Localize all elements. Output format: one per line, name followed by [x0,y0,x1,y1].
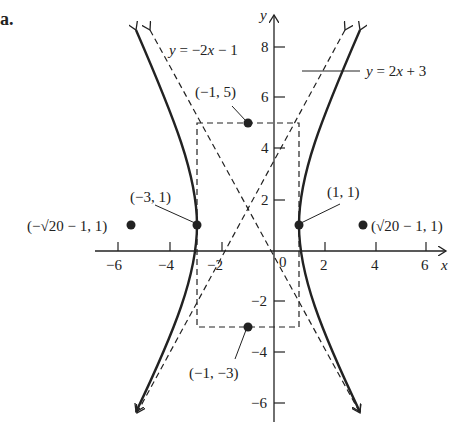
asymptote-label-negative: y = −2x − 1 [167,42,238,58]
hyperbola-left-branch [136,30,197,412]
asymptote-label-positive: y = 2x + 3 [364,63,426,79]
vertex-right [295,221,304,230]
x-tick-label: 2 [320,257,328,273]
central-box [197,123,299,327]
point-label-top: (−1, 5) [195,84,236,101]
y-ticks [274,47,285,403]
x-tick-label: 6 [421,257,429,273]
x-ticks [118,242,426,251]
y-axis-label: y [258,7,267,23]
point-label-vertex-left: (−3, 1) [130,189,171,206]
x-axis-label: x [440,257,448,273]
point-label-bottom: (−1, −3) [189,365,238,382]
focus-right [359,221,368,230]
x-tick-label: 4 [371,257,379,273]
focus-left [127,221,136,230]
x-tick-label: −6 [106,257,122,273]
figure-label: a. [0,9,14,29]
asymptote-positive [137,30,345,413]
y-tick-label: 4 [261,140,269,156]
y-tick-label: 8 [261,39,269,55]
y-tick-label: −6 [251,395,267,411]
hyperbola-right-branch [299,30,360,412]
vertex-left [193,221,202,230]
y-tick-label: −2 [251,293,267,309]
point-bottom [244,323,253,332]
y-tick-label: 6 [261,89,269,105]
y-tick-label: 2 [261,192,269,208]
x-tick-label: −4 [158,257,174,273]
point-label-focus-left: (−√20 − 1, 1) [27,218,107,235]
hyperbola-graph: −6 −4 −2 0 2 4 6 x 8 6 4 2 −2 −4 −6 y a.… [0,0,453,422]
point-label-vertex-right: (1, 1) [327,184,360,201]
y-tick-label: −4 [251,344,267,360]
leader-lines [155,71,360,359]
point-label-focus-right: (√20 − 1, 1) [371,218,443,235]
